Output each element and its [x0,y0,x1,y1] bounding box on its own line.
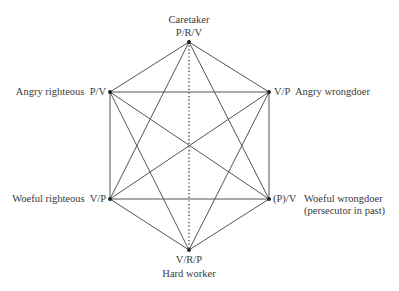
node-label-woeful-wrongdoer-code: (P)/V [273,193,296,205]
node-dot-lr [267,197,271,201]
node-label-woeful-wrongdoer-note: (persecutor in past) [304,205,385,217]
woeful-righteous-code: V/P [90,193,106,204]
node-dot-ul [108,90,112,94]
node-label-woeful-righteous: Woeful righteous V/P [0,193,106,205]
node-label-angry-wrongdoer: V/P Angry wrongdoer [274,86,370,98]
edge-top-lr [189,42,269,199]
node-dot-ur [267,90,271,94]
angry-righteous-code: P/V [90,86,106,97]
edge-top-ll [110,42,189,199]
edge-ll-bottom [110,199,189,250]
node-dot-top [187,40,191,44]
node-dot-ll [108,197,112,201]
diagram-canvas: Caretaker P/R/V Angry righteous P/V V/P … [0,0,399,291]
node-label-caretaker-code: P/R/V [149,27,229,39]
angry-righteous-role: Angry righteous [16,86,85,97]
woeful-righteous-role: Woeful righteous [12,193,84,204]
node-label-hard-worker-code: V/R/P [149,254,229,266]
node-label-woeful-wrongdoer-role: Woeful wrongdoer [304,193,383,205]
edge-bottom-ul [110,92,189,250]
edge-lr-bottom [189,199,269,250]
node-label-hard-worker-role: Hard worker [149,268,229,280]
edge-bottom-ur [189,92,269,250]
node-label-angry-righteous: Angry righteous P/V [0,86,106,98]
hexagram-lines [0,0,399,291]
edge-top-ul [110,42,189,92]
edge-top-ur [189,42,269,92]
node-dot-bottom [187,248,191,252]
node-label-caretaker-role: Caretaker [149,14,229,26]
angry-wrongdoer-code: V/P [274,86,290,97]
angry-wrongdoer-role: Angry wrongdoer [295,86,370,97]
